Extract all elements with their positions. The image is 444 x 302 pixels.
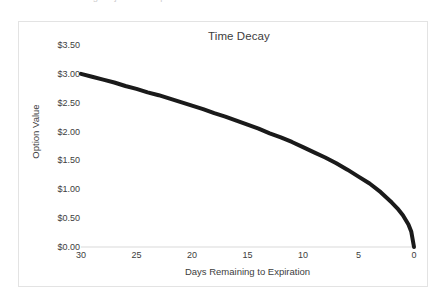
chart-frame: Time Decay Option Value $3.50$3.00$2.50$… <box>18 21 428 287</box>
time-decay-curve <box>81 74 414 247</box>
clipped-top-text-line: a b c d e f g h i j k l m n o p <box>0 0 444 10</box>
x-axis-title: Days Remaining to Expiration <box>81 266 414 277</box>
chart-plot-svg <box>19 22 429 288</box>
clipped-top-text: a b c d e f g h i j k l m n o p <box>46 0 166 2</box>
